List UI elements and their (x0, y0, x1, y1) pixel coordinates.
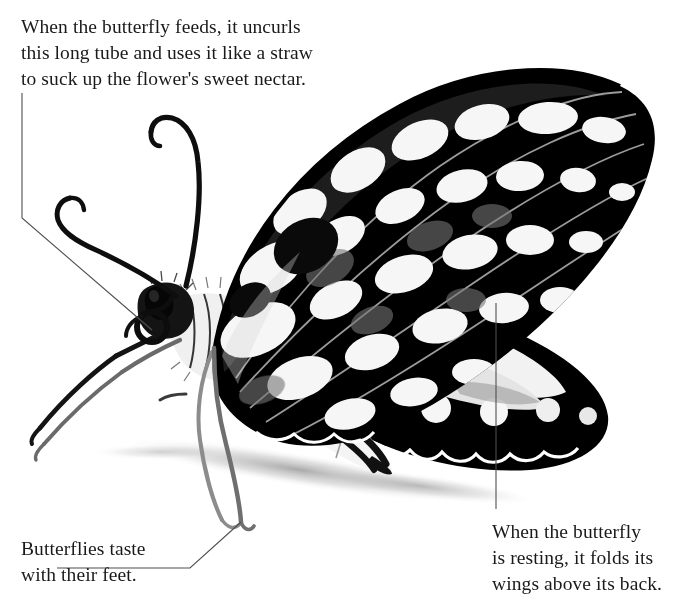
caption-feet: Butterflies taste with their feet. (21, 536, 201, 588)
antennae (57, 117, 199, 296)
caption-wings: When the butterfly is resting, it folds … (492, 519, 682, 597)
head (126, 271, 194, 342)
butterfly-diagram-page: When the butterfly feeds, it uncurls thi… (0, 0, 688, 613)
caption-proboscis: When the butterfly feeds, it uncurls thi… (21, 14, 351, 92)
